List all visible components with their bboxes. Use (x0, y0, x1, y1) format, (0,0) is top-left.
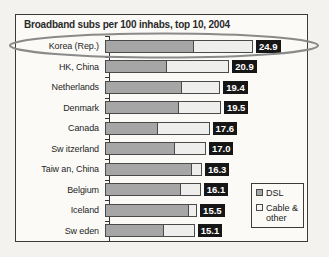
bar-value-label: 16.1 (204, 183, 229, 196)
axis-tick (105, 77, 109, 78)
stacked-bar[interactable] (105, 40, 253, 53)
bar-value-label: 24.9 (256, 40, 281, 53)
axis-tick (105, 180, 109, 181)
bar-row[interactable]: Canada17.6 (16, 118, 307, 139)
bar-segment-cable-other (181, 81, 220, 94)
bar-value-label: 19.4 (223, 81, 248, 94)
bar-value-label: 19.5 (224, 101, 249, 114)
bar-segment-dsl (105, 224, 163, 237)
bar-segment-dsl (105, 40, 193, 53)
bar-value-label: 15.5 (200, 204, 225, 217)
bar-row[interactable]: Korea (Rep.)24.9 (16, 36, 307, 57)
bar-value-label: 15.1 (198, 224, 223, 237)
axis-tick (105, 118, 109, 119)
bar-value-label: 17.0 (209, 142, 234, 155)
bar-category-label: Sw eden (16, 226, 104, 236)
bar-row[interactable]: Denmark19.5 (16, 98, 307, 119)
legend-item[interactable]: DSL (256, 188, 300, 198)
stacked-bar[interactable] (105, 60, 229, 73)
axis-tick (105, 139, 109, 140)
bar-segment-dsl (105, 204, 188, 217)
bar-segment-cable-other (166, 60, 230, 73)
legend-item[interactable]: Cable & other (256, 203, 300, 223)
bar-segment-dsl (105, 60, 166, 73)
bar-segment-cable-other (188, 204, 198, 217)
axis-tick (105, 241, 109, 242)
bar-segment-dsl (105, 122, 157, 135)
bar-category-label: Belgium (16, 185, 104, 195)
bar-segment-dsl (105, 142, 174, 155)
stacked-bar[interactable] (105, 122, 210, 135)
legend-label: Cable & other (266, 203, 300, 223)
stacked-bar[interactable] (105, 101, 221, 114)
bar-row[interactable]: HK, China20.9 (16, 57, 307, 78)
chart-legend: DSLCable & other (251, 183, 304, 228)
legend-swatch-icon (256, 189, 263, 196)
axis-tick (105, 221, 109, 222)
bar-segment-cable-other (174, 142, 206, 155)
bar-category-label: HK, China (16, 62, 104, 72)
stacked-bar[interactable] (105, 142, 206, 155)
bar-category-label: Taiw an, China (16, 164, 104, 174)
axis-tick (105, 57, 109, 58)
bar-row[interactable]: Sw itzerland17.0 (16, 139, 307, 160)
legend-label: DSL (266, 188, 284, 198)
bar-category-label: Netherlands (16, 82, 104, 92)
stacked-bar[interactable] (105, 163, 202, 176)
axis-tick (105, 98, 109, 99)
bar-row[interactable]: Netherlands19.4 (16, 77, 307, 98)
chart-title: Broadband subs per 100 inhabs, top 10, 2… (24, 19, 230, 30)
axis-tick (105, 159, 109, 160)
bar-category-label: Sw itzerland (16, 144, 104, 154)
bar-category-label: Denmark (16, 103, 104, 113)
bar-value-label: 16.3 (205, 163, 230, 176)
bar-segment-cable-other (157, 122, 210, 135)
bar-row[interactable]: Taiw an, China16.3 (16, 159, 307, 180)
bar-category-label: Canada (16, 123, 104, 133)
bar-segment-dsl (105, 183, 180, 196)
bar-segment-cable-other (180, 183, 201, 196)
legend-swatch-icon (256, 204, 263, 211)
bar-category-label: Iceland (16, 205, 104, 215)
stacked-bar[interactable] (105, 224, 195, 237)
bar-segment-cable-other (178, 101, 221, 114)
bar-category-label: Korea (Rep.) (16, 41, 104, 51)
stacked-bar[interactable] (105, 183, 201, 196)
bar-segment-dsl (105, 163, 191, 176)
chart-frame: Broadband subs per 100 inhabs, top 10, 2… (15, 14, 308, 242)
stacked-bar[interactable] (105, 81, 220, 94)
bar-segment-dsl (105, 101, 178, 114)
stacked-bar[interactable] (105, 204, 197, 217)
bar-segment-cable-other (163, 224, 195, 237)
bar-value-label: 20.9 (232, 60, 257, 73)
bar-segment-cable-other (193, 40, 253, 53)
bar-value-label: 17.6 (213, 122, 238, 135)
bar-segment-cable-other (191, 163, 202, 176)
axis-tick (105, 36, 109, 37)
bar-segment-dsl (105, 81, 181, 94)
axis-tick (105, 200, 109, 201)
